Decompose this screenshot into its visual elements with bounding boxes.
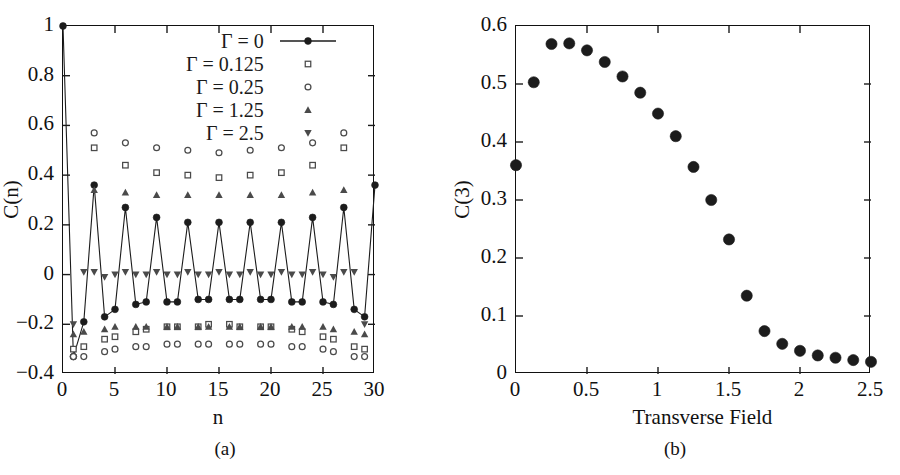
- panel-a: −0.4−0.200.20.40.60.81 051015202530 C(n)…: [0, 0, 455, 475]
- data-point: [278, 269, 285, 276]
- data-point: [289, 344, 295, 350]
- data-point: [154, 170, 160, 176]
- panel-b: 00.10.20.30.40.50.6 00.511.522.5 C(3) Tr…: [455, 0, 900, 475]
- data-point: [91, 145, 97, 151]
- data-point: [299, 329, 305, 335]
- data-point: [153, 191, 160, 198]
- data-point: [257, 296, 264, 303]
- data-point: [777, 338, 788, 349]
- data-point: [247, 172, 253, 178]
- y-tick-label: 0.6: [0, 113, 54, 134]
- data-point: [635, 87, 646, 98]
- legend-item: Γ = 2.5: [186, 122, 340, 143]
- data-point: [340, 204, 347, 211]
- data-point: [111, 323, 118, 330]
- data-point: [305, 84, 311, 90]
- data-point: [848, 355, 859, 366]
- data-point: [546, 38, 557, 49]
- data-point: [528, 77, 539, 88]
- data-point: [351, 354, 357, 360]
- data-point: [309, 189, 316, 196]
- panel-b-caption: (b): [645, 438, 705, 460]
- data-point: [216, 219, 223, 226]
- data-point: [90, 269, 97, 276]
- data-point: [215, 191, 222, 198]
- data-point: [688, 161, 699, 172]
- data-point: [132, 301, 139, 308]
- y-tick-label: 0: [0, 263, 54, 284]
- data-point: [350, 269, 357, 276]
- data-point: [80, 269, 87, 276]
- data-point: [184, 219, 191, 226]
- data-point: [112, 346, 118, 352]
- data-point: [153, 269, 160, 276]
- data-point: [174, 298, 181, 305]
- data-point: [111, 272, 118, 279]
- data-point: [362, 346, 368, 352]
- data-point: [101, 326, 108, 333]
- x-tick-label: 30: [344, 379, 404, 400]
- data-point: [320, 346, 326, 352]
- data-point: [206, 341, 212, 347]
- series-0.125: [71, 145, 368, 352]
- data-point: [372, 182, 379, 189]
- data-point: [599, 56, 610, 67]
- data-point: [215, 269, 222, 276]
- data-point: [723, 234, 734, 245]
- data-point: [510, 160, 521, 171]
- data-point: [351, 306, 358, 313]
- data-point: [361, 313, 368, 320]
- x-tick-label: 0.5: [556, 379, 616, 400]
- x-axis-title-b: Transverse Field: [633, 405, 753, 430]
- data-point: [184, 269, 191, 276]
- panel-a-caption: (a): [195, 438, 255, 460]
- x-tick-label: 2: [769, 379, 829, 400]
- series-C3: [510, 38, 876, 368]
- legend-item: Γ = 0.25: [186, 76, 340, 97]
- series-1.25: [70, 186, 369, 337]
- data-point: [362, 354, 368, 360]
- legend-item: Γ = 1.25: [186, 99, 340, 120]
- data-point: [123, 162, 129, 168]
- data-point: [331, 336, 337, 342]
- data-point: [351, 344, 357, 350]
- y-tick-label: 0.2: [451, 246, 507, 267]
- data-point: [310, 162, 316, 168]
- legend-label: Γ = 2.5: [206, 123, 278, 143]
- data-point: [185, 172, 191, 178]
- data-point: [154, 145, 160, 151]
- figure-container: −0.4−0.200.20.40.60.81 051015202530 C(n)…: [0, 0, 900, 475]
- data-point: [132, 323, 139, 330]
- data-point: [237, 341, 243, 347]
- plot-area-b: [515, 25, 870, 373]
- data-point: [268, 341, 274, 347]
- data-point: [70, 331, 77, 338]
- data-point: [247, 147, 253, 153]
- x-axis-title-a: n: [158, 405, 278, 430]
- plot-canvas-b: [516, 26, 871, 374]
- data-point: [830, 352, 841, 363]
- data-point: [60, 23, 67, 30]
- data-point: [205, 296, 212, 303]
- data-point: [330, 301, 337, 308]
- x-tick-label: 0: [485, 379, 545, 400]
- x-tick-label: 25: [292, 379, 352, 400]
- y-tick-label: 0.6: [451, 14, 507, 35]
- data-point: [288, 298, 295, 305]
- data-point: [122, 269, 129, 276]
- legend-label: Γ = 0.25: [196, 77, 278, 97]
- x-tick-label: 1: [627, 379, 687, 400]
- data-point: [102, 349, 108, 355]
- y-tick-label: −0.2: [0, 312, 54, 333]
- x-tick-label: 1.5: [698, 379, 758, 400]
- data-point: [80, 318, 87, 325]
- data-point: [102, 336, 108, 342]
- data-point: [133, 344, 139, 350]
- data-point: [81, 354, 87, 360]
- y-tick-label: 0.4: [451, 130, 507, 151]
- data-point: [794, 345, 805, 356]
- data-point: [195, 341, 201, 347]
- data-point: [340, 186, 347, 193]
- y-tick-label: 1: [0, 14, 54, 35]
- data-point: [304, 106, 311, 113]
